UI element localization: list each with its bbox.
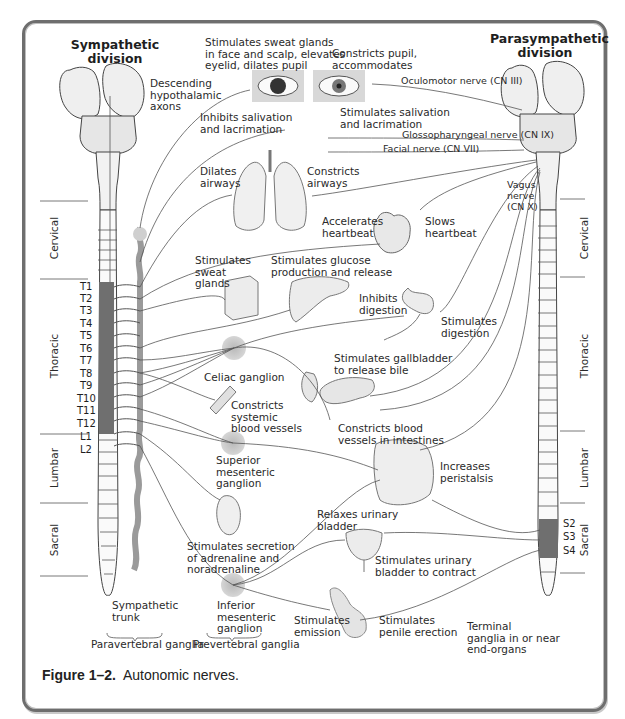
figure-caption: Figure 1–2. Autonomic nerves.	[42, 667, 239, 683]
brace-icons	[0, 0, 625, 719]
caption-number: Figure 1–2.	[42, 667, 116, 683]
caption-text: Autonomic nerves.	[123, 667, 239, 683]
